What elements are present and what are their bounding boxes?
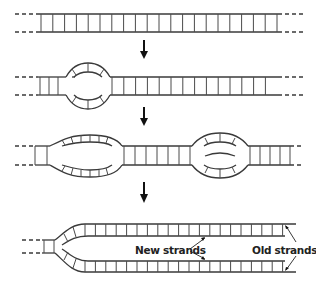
panel-1-unreplicated-dna (15, 14, 303, 32)
down-arrow-icon (140, 182, 148, 203)
new-strands-label: New strands (135, 244, 206, 256)
panel-3-two-bubbles (15, 133, 303, 178)
panel-2-single-bubble (15, 63, 303, 109)
dna-replication-diagram: New strands Old strands (0, 0, 316, 287)
down-arrow-icon (140, 107, 148, 126)
panel-4-replication-fork: New strands Old strands (22, 224, 316, 272)
old-strands-label: Old strands (252, 244, 316, 256)
down-arrow-icon (140, 40, 148, 59)
